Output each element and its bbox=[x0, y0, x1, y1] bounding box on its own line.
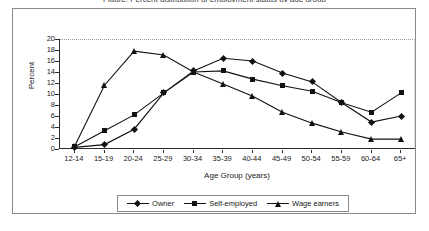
x-tick-mark bbox=[133, 150, 134, 153]
data-point-marker bbox=[132, 112, 137, 117]
data-point-marker bbox=[161, 90, 166, 95]
y-tick-label: 4 bbox=[39, 123, 55, 131]
square-marker-icon bbox=[184, 199, 206, 208]
data-point-marker bbox=[369, 110, 374, 115]
y-tick-label: 20 bbox=[39, 35, 55, 43]
y-tick-mark bbox=[55, 83, 59, 84]
y-tick-mark bbox=[55, 105, 59, 106]
chart-legend: Owner Self-employed Wage earners bbox=[117, 195, 349, 212]
x-tick-mark bbox=[74, 150, 75, 153]
data-point-marker bbox=[101, 82, 107, 88]
x-tick-mark bbox=[400, 150, 401, 153]
diamond-marker-icon bbox=[127, 199, 149, 208]
x-tick-mark bbox=[371, 150, 372, 153]
data-point-marker bbox=[339, 100, 344, 105]
data-point-marker bbox=[279, 109, 285, 115]
series-line-wage-earners bbox=[75, 51, 401, 146]
y-tick-mark bbox=[55, 116, 59, 117]
x-tick-mark bbox=[163, 150, 164, 153]
y-axis-tick-labels: 02468101214161820 bbox=[37, 39, 55, 149]
data-point-marker bbox=[220, 81, 226, 87]
y-tick-label: 8 bbox=[39, 101, 55, 109]
data-point-marker bbox=[398, 136, 404, 142]
chart-screenshot: Figure: Percent distribution of employme… bbox=[0, 0, 429, 231]
plot-area bbox=[59, 39, 415, 149]
data-point-marker bbox=[338, 129, 344, 135]
y-tick-label: 2 bbox=[39, 134, 55, 142]
data-point-marker bbox=[310, 89, 315, 94]
data-point-marker bbox=[309, 120, 315, 126]
chart-frame: Percent 02468101214161820 12-1415-1920-2… bbox=[12, 8, 416, 214]
y-tick-label: 6 bbox=[39, 112, 55, 120]
triangle-marker-icon bbox=[267, 199, 289, 208]
data-point-marker bbox=[160, 52, 166, 58]
data-point-marker bbox=[249, 93, 255, 99]
data-point-marker bbox=[250, 77, 255, 82]
data-point-marker bbox=[190, 69, 196, 75]
y-tick-label: 10 bbox=[39, 90, 55, 98]
series-lines bbox=[60, 39, 416, 149]
legend-item-owner: Owner bbox=[127, 199, 174, 208]
y-tick-mark bbox=[55, 50, 59, 51]
y-tick-label: 14 bbox=[39, 68, 55, 76]
y-tick-mark bbox=[55, 39, 59, 40]
y-axis-title: Percent bbox=[27, 46, 36, 106]
y-tick-mark bbox=[55, 138, 59, 139]
data-point-marker bbox=[399, 90, 404, 95]
legend-label: Owner bbox=[152, 199, 174, 208]
data-point-marker bbox=[71, 143, 77, 149]
x-tick-mark bbox=[252, 150, 253, 153]
x-axis-tick-labels: 12-1415-1920-2425-2930-3435-3940-4445-49… bbox=[59, 150, 415, 172]
y-tick-mark bbox=[55, 61, 59, 62]
data-point-marker bbox=[102, 128, 107, 133]
x-tick-mark bbox=[222, 150, 223, 153]
x-tick-label: 65+ bbox=[380, 155, 420, 163]
x-tick-mark bbox=[341, 150, 342, 153]
x-tick-mark bbox=[104, 150, 105, 153]
data-point-marker bbox=[280, 83, 285, 88]
legend-item-wage-earners: Wage earners bbox=[267, 199, 339, 208]
y-tick-label: 12 bbox=[39, 79, 55, 87]
legend-label: Self-employed bbox=[209, 199, 257, 208]
y-tick-label: 0 bbox=[39, 145, 55, 153]
y-tick-label: 18 bbox=[39, 46, 55, 54]
y-tick-mark bbox=[55, 127, 59, 128]
x-tick-mark bbox=[282, 150, 283, 153]
x-tick-mark bbox=[193, 150, 194, 153]
legend-label: Wage earners bbox=[292, 199, 339, 208]
cropped-chart-title: Figure: Percent distribution of employme… bbox=[0, 0, 429, 2]
data-point-marker bbox=[368, 136, 374, 142]
data-point-marker bbox=[221, 68, 226, 73]
legend-item-self-employed: Self-employed bbox=[184, 199, 257, 208]
series-line-self-employed bbox=[75, 71, 401, 147]
y-tick-label: 16 bbox=[39, 57, 55, 65]
y-tick-mark bbox=[55, 72, 59, 73]
y-tick-mark bbox=[55, 149, 59, 150]
data-point-marker bbox=[131, 48, 137, 54]
x-axis-title: Age Group (years) bbox=[59, 171, 415, 180]
x-tick-mark bbox=[311, 150, 312, 153]
y-tick-mark bbox=[55, 94, 59, 95]
